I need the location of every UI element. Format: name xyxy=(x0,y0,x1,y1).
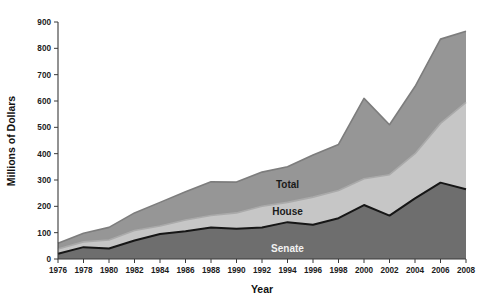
series-label-total: Total xyxy=(276,179,299,190)
x-tick-label: 1992 xyxy=(253,266,272,275)
x-tick-label: 1978 xyxy=(74,266,93,275)
y-tick-label: 700 xyxy=(37,71,51,80)
y-tick-label: 300 xyxy=(37,176,51,185)
y-tick-label: 0 xyxy=(46,255,51,264)
x-tick-label: 1986 xyxy=(176,266,195,275)
x-tick-label: 2004 xyxy=(406,266,425,275)
x-tick-label: 1990 xyxy=(227,266,246,275)
x-tick-label: 1998 xyxy=(329,266,348,275)
series-label-senate: Senate xyxy=(271,243,304,254)
x-axis-tick-labels: 1976197819801982198419861988199019921994… xyxy=(49,266,476,275)
x-axis-title: Year xyxy=(251,283,273,295)
x-tick-label: 1996 xyxy=(304,266,323,275)
y-tick-label: 400 xyxy=(37,150,51,159)
x-tick-label: 1988 xyxy=(202,266,221,275)
x-tick-label: 1982 xyxy=(125,266,144,275)
stacked-area-chart: 1976197819801982198419861988199019921994… xyxy=(0,0,488,301)
x-tick-label: 2000 xyxy=(355,266,374,275)
chart-container: 1976197819801982198419861988199019921994… xyxy=(0,0,488,301)
x-tick-label: 2006 xyxy=(431,266,450,275)
x-tick-label: 2008 xyxy=(457,266,476,275)
y-tick-label: 600 xyxy=(37,97,51,106)
y-tick-label: 800 xyxy=(37,44,51,53)
y-tick-label: 100 xyxy=(37,229,51,238)
y-axis-title: Millions of Dollars xyxy=(5,96,17,187)
series-label-house: House xyxy=(272,206,303,217)
y-tick-label: 900 xyxy=(37,18,51,27)
x-tick-label: 2002 xyxy=(380,266,399,275)
x-tick-label: 1980 xyxy=(100,266,119,275)
y-tick-label: 200 xyxy=(37,202,51,211)
x-tick-label: 1994 xyxy=(278,266,297,275)
x-tick-label: 1976 xyxy=(49,266,68,275)
y-tick-label: 500 xyxy=(37,123,51,132)
x-tick-label: 1984 xyxy=(151,266,170,275)
